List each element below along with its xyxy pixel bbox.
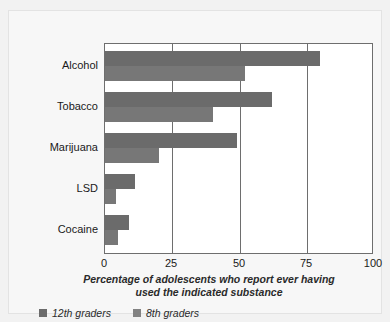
category-axis-labels: AlcoholTobaccoMarijuanaLSDCocaine [9,43,98,254]
category-label-lsd: LSD [9,182,98,194]
x-axis-caption: Percentage of adolescents who report eve… [49,273,369,299]
x-tick-label-100: 100 [364,257,382,269]
bar-cocaine-12th-graders [105,215,129,230]
legend-swatch-icon-12th-graders [39,309,47,317]
chart-card: AlcoholTobaccoMarijuanaLSDCocaine 025507… [8,10,382,314]
x-axis-caption-line-1: Percentage of adolescents who report eve… [49,273,369,286]
bar-lsd-12th-graders [105,174,135,189]
legend-label-8th-graders: 8th graders [146,307,199,319]
legend-item-12th-graders: 12th graders [39,307,111,319]
bar-lsd-8th-graders [105,189,116,204]
bar-tobacco-8th-graders [105,107,213,122]
chart-legend: 12th graders 8th graders [39,307,199,319]
bar-cocaine-8th-graders [105,230,118,245]
plot-area [104,43,373,254]
bar-marijuana-8th-graders [105,148,159,163]
legend-swatch-icon-8th-graders [133,309,141,317]
bar-alcohol-8th-graders [105,66,245,81]
x-tick-label-75: 75 [300,257,312,269]
bar-tobacco-12th-graders [105,92,272,107]
category-label-marijuana: Marijuana [9,141,98,153]
x-tick-label-25: 25 [165,257,177,269]
x-axis-caption-line-2: used the indicated substance [49,286,369,299]
category-label-cocaine: Cocaine [9,223,98,235]
chart-figure: AlcoholTobaccoMarijuanaLSDCocaine 025507… [0,0,390,322]
category-label-tobacco: Tobacco [9,100,98,112]
x-tick-label-50: 50 [233,257,245,269]
category-label-alcohol: Alcohol [9,59,98,71]
x-axis-tick-labels: 0255075100 [104,257,373,273]
bar-marijuana-12th-graders [105,133,237,148]
bar-alcohol-12th-graders [105,51,320,66]
legend-item-8th-graders: 8th graders [133,307,199,319]
legend-label-12th-graders: 12th graders [52,307,111,319]
x-tick-label-0: 0 [101,257,107,269]
bar-series-container [105,44,372,253]
